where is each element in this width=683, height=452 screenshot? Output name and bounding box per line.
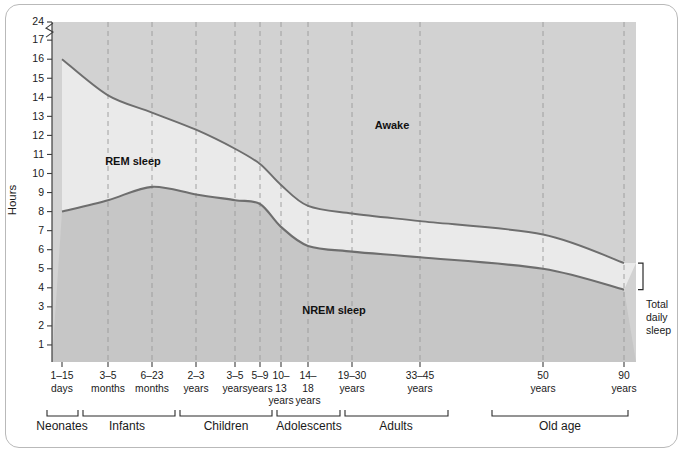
x-tick-label-line: 1–15: [51, 370, 74, 381]
y-tick-label: 5: [38, 262, 44, 274]
y-axis: [47, 22, 52, 362]
y-tick-label: 8: [38, 205, 44, 217]
x-tick-label-line: 90: [618, 370, 630, 381]
age-group-labels: NeonatesInfantsChildrenAdolescentsAdults…: [36, 419, 581, 433]
y-tick-label: 7: [38, 224, 44, 236]
y-tick-label: 15: [32, 72, 44, 84]
age-group-label: Children: [204, 419, 249, 433]
x-tick-label-line: 33–45: [406, 370, 435, 381]
y-tick-label: 11: [33, 148, 44, 160]
x-tick-label-line: months: [135, 383, 169, 394]
x-tick-label-line: 3–5: [226, 370, 243, 381]
x-tick-label-line: years: [407, 383, 432, 394]
age-group-bracket: [180, 410, 272, 416]
age-group-label: Adolescents: [276, 419, 341, 433]
age-group-bracket: [47, 410, 78, 416]
age-group-label: Adults: [379, 419, 412, 433]
x-tick-label-line: 10–: [272, 370, 289, 381]
age-group-brackets: [47, 410, 628, 416]
x-tick-label-line: 2–3: [187, 370, 204, 381]
age-group-label: Infants: [109, 419, 145, 433]
x-tick-label-line: 5–9: [251, 370, 268, 381]
y-tick-label: 3: [38, 300, 44, 312]
age-group-bracket: [277, 410, 340, 416]
x-tick-label-line: years: [295, 395, 320, 406]
rem-sleep-label: REM sleep: [105, 155, 161, 167]
y-tick-label: 2: [38, 319, 44, 331]
y-tick-label: 1: [38, 338, 44, 350]
x-tick-label-line: years: [183, 383, 208, 394]
age-group-bracket: [83, 410, 175, 416]
y-tick-label: 6: [38, 243, 44, 255]
y-tick-label: 24: [32, 15, 44, 27]
total-daily-sleep-bracket: [638, 263, 643, 290]
x-axis: [62, 362, 624, 367]
x-tick-label-line: months: [91, 383, 125, 394]
x-tick-label-line: years: [268, 395, 293, 406]
y-tick-label: 13: [32, 110, 44, 122]
x-tick-label-line: years: [611, 383, 636, 394]
x-tick-label-line: years: [339, 383, 364, 394]
x-tick-label-line: days: [51, 383, 73, 394]
x-tick-label-line: 50: [537, 370, 549, 381]
x-tick-label-line: 6–23: [141, 370, 164, 381]
y-tick-labels: 123456789101112131415161724: [32, 15, 44, 350]
x-tick-label-line: 3–5: [99, 370, 116, 381]
age-group-label: Old age: [539, 419, 581, 433]
total-daily-sleep-line1: Total: [646, 298, 668, 310]
y-tick-label: 10: [32, 167, 44, 179]
age-group-label: Neonates: [36, 419, 87, 433]
total-daily-sleep-line3: sleep: [646, 324, 671, 336]
x-tick-labels: 1–15days3–5months6–23months2–3years3–5ye…: [51, 370, 637, 406]
y-tick-label: 9: [38, 186, 44, 198]
x-tick-label-line: 13: [275, 383, 287, 394]
awake-label: Awake: [375, 119, 410, 131]
x-tick-label-line: 18: [302, 383, 314, 394]
y-tick-label: 12: [32, 129, 44, 141]
x-tick-label-line: years: [247, 383, 272, 394]
y-tick-label: 14: [32, 91, 44, 103]
x-tick-label-line: years: [530, 383, 555, 394]
y-tick-label: 17: [32, 33, 44, 45]
x-tick-label-line: years: [222, 383, 247, 394]
sleep-across-lifespan-chart: Hours 123456789101112131415161724 1–15da…: [0, 0, 683, 452]
age-group-bracket: [345, 410, 448, 416]
x-tick-label-line: 19–30: [338, 370, 367, 381]
y-axis-title: Hours: [6, 184, 18, 215]
nrem-sleep-label: NREM sleep: [302, 304, 366, 316]
x-tick-label-line: 14–: [299, 370, 316, 381]
y-tick-label: 16: [32, 52, 44, 64]
age-group-bracket: [492, 410, 628, 416]
y-tick-label: 4: [38, 281, 44, 293]
total-daily-sleep-line2: daily: [646, 311, 668, 323]
chart-svg: Hours 123456789101112131415161724 1–15da…: [0, 0, 683, 452]
